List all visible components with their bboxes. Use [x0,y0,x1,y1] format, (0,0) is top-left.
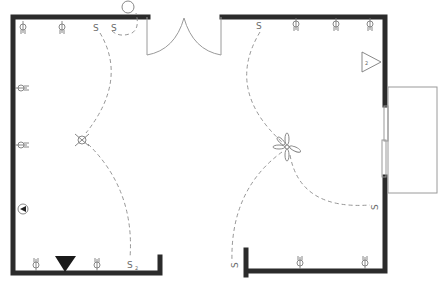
switch-icon: S [93,23,99,33]
switches: S S S S 2 S S [93,21,380,271]
panel-label: 2 [365,60,368,66]
outlet-icon [33,258,39,271]
panel-icon: 2 [362,52,381,72]
floor-plan: S S S S 2 S S 2 [0,0,444,283]
double-door [147,17,221,55]
ceiling-light-icon [75,134,89,146]
ceiling-fan-icon [273,133,301,161]
outlet-icon [293,18,299,31]
switch-icon: S [127,260,133,270]
left-room-wall [13,17,160,273]
outlet-icon [94,258,100,271]
top-right-wall [222,17,385,105]
outlet-icon [333,18,339,31]
outlet-icon [297,256,303,269]
outlet-icon [15,142,29,148]
switch-icon: S [256,21,262,31]
switch-subscript: 2 [135,265,138,271]
outlets [15,18,373,271]
switch-icon: S [230,262,240,268]
outlet-icon [362,256,368,269]
walls [13,17,385,275]
bottom-right-wall [247,177,385,271]
bay-outline [388,87,437,193]
switch-icon: S [370,204,380,210]
outlet-icon [20,21,26,34]
outlet-icon [15,85,29,91]
outlet-icon [59,21,65,34]
floor-outlet-icon [55,256,76,272]
window [382,106,388,177]
phone-jack-icon [18,204,28,214]
outlet-icon [367,18,373,31]
wiring [86,13,370,262]
exterior-light-icon [122,1,134,13]
